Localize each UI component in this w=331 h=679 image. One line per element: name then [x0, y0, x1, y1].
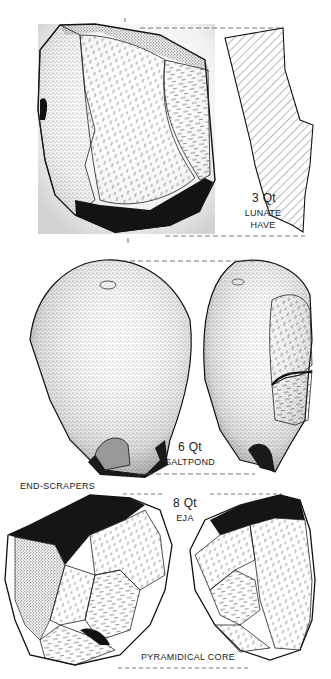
- specimen-6-site: SALTPOND: [158, 456, 222, 469]
- specimen-6-side-view: [204, 260, 312, 472]
- specimen-3-face-view: [38, 24, 215, 234]
- specimen-3-site-line-2: HAVE: [238, 219, 288, 232]
- specimen-6-number: 6 Qt: [165, 441, 215, 454]
- specimen-8-site: EJA: [165, 512, 205, 525]
- specimen-8-side-view: [190, 495, 315, 660]
- caption-end-scrapers: END-SCRAPERS: [20, 480, 110, 493]
- specimen-3-number: 3 Qt: [244, 192, 284, 205]
- specimen-8-front-view: [5, 495, 172, 665]
- caption-pyramidical-core: PYRAMIDICAL CORE: [128, 651, 248, 664]
- specimen-8-number: 8 Qt: [165, 497, 205, 510]
- lithic-illustration-plate: [0, 0, 331, 679]
